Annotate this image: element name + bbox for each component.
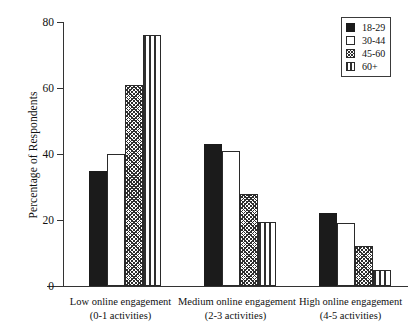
legend-swatch-icon <box>346 49 355 58</box>
x-axis-group-label: Low online engagement(0-1 activities) <box>63 295 178 322</box>
group-label-line1: High online engagement <box>293 295 408 309</box>
group-label-line1: Medium online engagement <box>178 295 293 309</box>
y-tick-mark <box>57 220 63 221</box>
bar <box>89 171 107 287</box>
bar <box>258 222 276 286</box>
legend-item: 18-29 <box>346 22 385 33</box>
bar <box>143 35 161 286</box>
y-tick-label: 60 <box>43 82 55 94</box>
y-tick-label: 0 <box>48 280 54 292</box>
legend-item: 30-44 <box>346 35 385 46</box>
legend-label: 60+ <box>362 61 378 72</box>
y-tick-mark <box>57 286 63 287</box>
legend: 18-2930-4445-6060+ <box>341 17 391 77</box>
y-tick-mark <box>57 88 63 89</box>
y-tick-mark <box>57 154 63 155</box>
bar <box>125 85 143 286</box>
legend-item: 45-60 <box>346 48 385 59</box>
x-axis-line <box>47 286 408 287</box>
legend-label: 18-29 <box>362 22 385 33</box>
bar <box>222 151 240 286</box>
y-axis-line <box>63 22 64 286</box>
bar-chart: Percentage of Respondents 020406080 Low … <box>0 0 416 331</box>
bar <box>319 213 337 286</box>
legend-swatch-icon <box>346 62 355 71</box>
y-axis-title: Percentage of Respondents <box>22 10 44 300</box>
bar <box>373 270 391 287</box>
y-tick-mark <box>57 22 63 23</box>
y-tick-label: 20 <box>43 214 55 226</box>
y-tick-label: 80 <box>43 16 55 28</box>
bar <box>240 194 258 286</box>
x-axis-group-label: High online engagement(4-5 activities) <box>293 295 408 322</box>
y-tick-label: 40 <box>43 148 55 160</box>
legend-item: 60+ <box>346 61 385 72</box>
group-label-line1: Low online engagement <box>63 295 178 309</box>
bar <box>355 246 373 286</box>
legend-label: 30-44 <box>362 35 385 46</box>
bar <box>204 144 222 286</box>
legend-swatch-icon <box>346 36 355 45</box>
group-label-line2: (0-1 activities) <box>63 309 178 323</box>
group-label-line2: (4-5 activities) <box>293 309 408 323</box>
bar <box>107 154 125 286</box>
legend-label: 45-60 <box>362 48 385 59</box>
legend-swatch-icon <box>346 23 355 32</box>
bar <box>337 223 355 286</box>
x-axis-group-label: Medium online engagement(2-3 activities) <box>178 295 293 322</box>
group-label-line2: (2-3 activities) <box>178 309 293 323</box>
